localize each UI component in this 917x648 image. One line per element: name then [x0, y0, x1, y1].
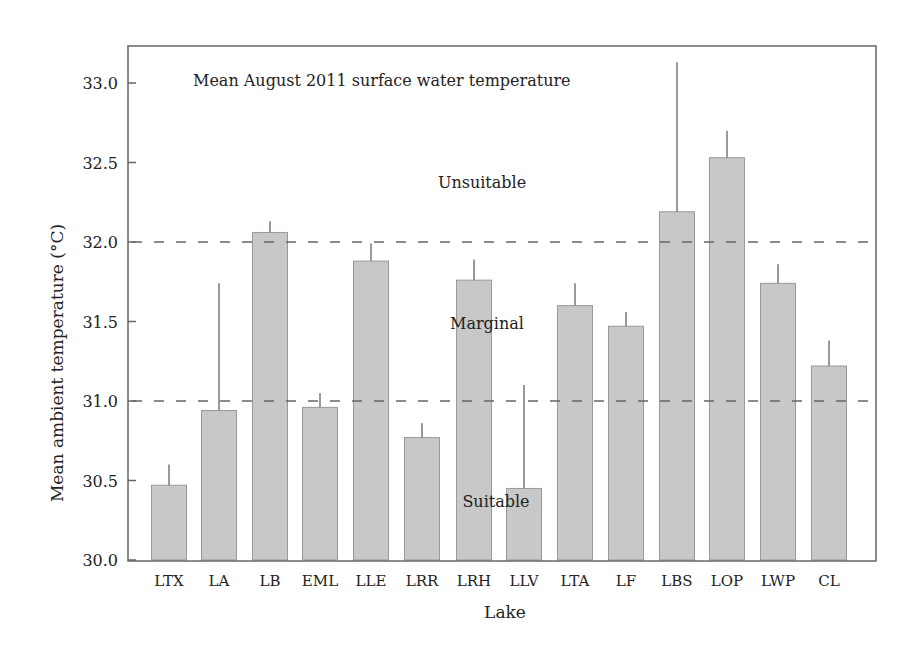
x-tick-label: LLV — [510, 572, 540, 590]
x-axis-label: Lake — [484, 602, 526, 622]
x-tick-label: LB — [260, 572, 281, 590]
x-tick-label: LTX — [154, 572, 184, 590]
x-axis-ticks: LTXLALBEMLLLELRRLRHLLVLTALFLBSLOPLWPCL — [154, 572, 839, 590]
y-tick-label: 32.0 — [82, 233, 118, 252]
bar-eml — [303, 407, 338, 560]
y-tick-label: 31.0 — [82, 392, 118, 411]
bar-lop — [710, 158, 745, 560]
bar-cl — [812, 366, 847, 560]
y-tick-label: 30.0 — [82, 551, 118, 570]
zone-label: Suitable — [462, 492, 529, 511]
bar-lle — [354, 261, 389, 560]
x-tick-label: LRH — [457, 572, 491, 590]
bar-lf — [609, 326, 644, 560]
chart-title: Mean August 2011 surface water temperatu… — [193, 71, 571, 90]
x-tick-label: LRR — [406, 572, 439, 590]
bar-lb — [253, 232, 288, 560]
bar-lbs — [660, 212, 695, 560]
y-tick-label: 33.0 — [82, 74, 118, 93]
bar-chart: 30.030.531.031.532.032.533.0 LTXLALBEMLL… — [0, 0, 917, 648]
zone-label: Marginal — [450, 314, 524, 333]
x-tick-label: LBS — [661, 572, 692, 590]
bar-ltx — [152, 485, 187, 560]
x-tick-label: LWP — [761, 572, 795, 590]
bar-lwp — [761, 283, 796, 560]
y-tick-label: 31.5 — [82, 313, 118, 332]
bar-lta — [558, 306, 593, 560]
y-tick-label: 32.5 — [82, 154, 118, 173]
bar-la — [202, 411, 237, 560]
x-tick-label: EML — [302, 572, 338, 590]
x-tick-label: LOP — [711, 572, 743, 590]
x-tick-label: LF — [616, 572, 636, 590]
x-tick-label: CL — [818, 572, 839, 590]
x-tick-label: LLE — [356, 572, 387, 590]
y-axis-label: Mean ambient temperature (°C) — [47, 224, 67, 502]
x-tick-label: LA — [209, 572, 230, 590]
x-tick-label: LTA — [561, 572, 590, 590]
bar-lrr — [405, 438, 440, 560]
y-tick-label: 30.5 — [82, 472, 118, 491]
zone-label: Unsuitable — [438, 173, 526, 192]
